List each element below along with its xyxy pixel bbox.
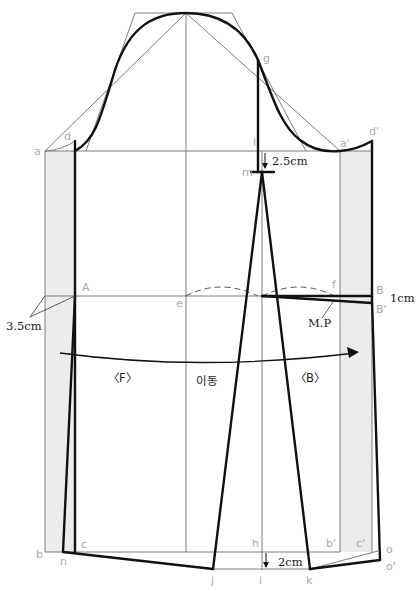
label-o-prime: o' bbox=[386, 560, 396, 573]
measurement-hem-drop: 2cm bbox=[278, 555, 303, 569]
label-B-prime: B' bbox=[376, 303, 387, 316]
label-h: h bbox=[252, 537, 259, 550]
dashed-arc-back bbox=[262, 287, 334, 296]
down-arrow-icon bbox=[262, 163, 268, 169]
annotation-back: 〈B〉 bbox=[295, 371, 325, 385]
label-B: B bbox=[376, 284, 384, 297]
annotation-match-point: M.P bbox=[308, 316, 331, 330]
label-m: m bbox=[242, 166, 253, 179]
down-arrow-icon bbox=[263, 562, 269, 568]
pattern-diagram: a d g l m a' d' A e f B B' b n c h b' c'… bbox=[0, 0, 420, 601]
label-b: b bbox=[36, 548, 43, 561]
guide-lines bbox=[45, 13, 378, 570]
label-j: j bbox=[210, 574, 214, 587]
label-a-prime: a' bbox=[340, 137, 350, 150]
label-k: k bbox=[306, 574, 313, 587]
left-shaded-strip bbox=[45, 151, 75, 552]
label-o: o bbox=[386, 543, 393, 556]
measurement-back-drop: 1cm bbox=[390, 291, 415, 305]
measurement-side-width: 3.5cm bbox=[6, 319, 42, 333]
label-n: n bbox=[60, 555, 67, 568]
label-e: e bbox=[176, 297, 183, 310]
annotation-front: 〈F〉 bbox=[108, 371, 137, 385]
measurement-shoulder-drop: 2.5cm bbox=[272, 154, 308, 168]
label-f: f bbox=[332, 278, 337, 291]
label-A: A bbox=[82, 281, 90, 294]
label-a: a bbox=[34, 145, 41, 158]
label-d-prime: d' bbox=[369, 125, 379, 138]
label-c: c bbox=[81, 538, 87, 551]
pattern-outline bbox=[45, 13, 380, 569]
label-b-prime: b' bbox=[326, 537, 336, 550]
move-arrow bbox=[60, 353, 355, 363]
label-d: d bbox=[64, 130, 71, 143]
annotation-move: 이동 bbox=[196, 374, 218, 388]
label-i: i bbox=[259, 574, 262, 587]
label-g: g bbox=[263, 52, 270, 65]
label-l: l bbox=[253, 136, 256, 149]
label-c-prime: c' bbox=[356, 537, 365, 550]
